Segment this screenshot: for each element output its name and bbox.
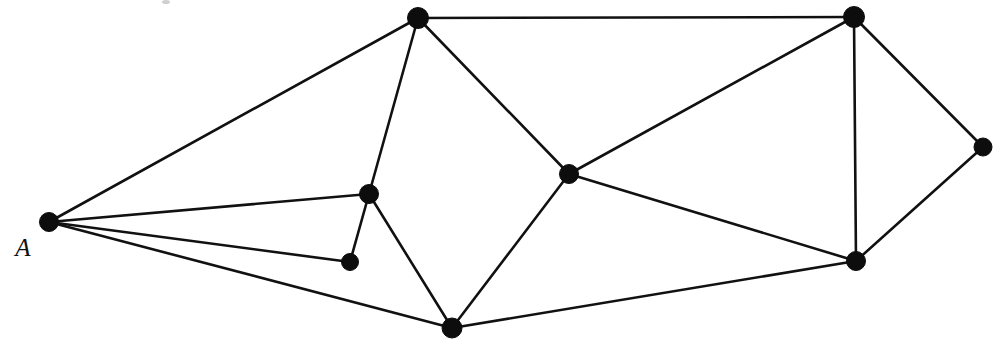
graph-edge-c-g bbox=[854, 17, 983, 147]
graph-vertex-i bbox=[442, 318, 462, 338]
graph-edge-d-e bbox=[350, 194, 369, 262]
graph-edge-f-h bbox=[569, 174, 856, 261]
graph-canvas: A bbox=[0, 0, 995, 359]
edge-layer bbox=[49, 17, 983, 328]
graph-edge-c-f bbox=[569, 17, 854, 174]
graph-edge-b-c bbox=[418, 17, 854, 18]
graph-vertex-g bbox=[974, 138, 992, 156]
scan-artifact bbox=[162, 0, 170, 4]
graph-edge-a-i bbox=[49, 222, 452, 328]
graph-vertex-b bbox=[408, 8, 429, 29]
vertex-layer bbox=[40, 7, 993, 339]
graph-edge-b-f bbox=[418, 18, 569, 174]
graph-figure: A bbox=[0, 0, 995, 359]
graph-vertex-c bbox=[844, 7, 865, 28]
label-layer: A bbox=[13, 234, 31, 261]
graph-vertex-e bbox=[342, 254, 359, 271]
graph-vertex-d bbox=[360, 185, 379, 204]
graph-vertex-a bbox=[40, 213, 59, 232]
graph-vertex-h bbox=[847, 252, 866, 271]
graph-edge-h-i bbox=[452, 261, 856, 328]
graph-edge-a-d bbox=[49, 194, 369, 222]
graph-edge-g-h bbox=[856, 147, 983, 261]
graph-edge-b-d bbox=[369, 18, 418, 194]
graph-edge-d-i bbox=[369, 194, 452, 328]
graph-edge-f-i bbox=[452, 174, 569, 328]
vertex-label-a: A bbox=[13, 234, 31, 261]
graph-edge-a-e bbox=[49, 222, 350, 262]
artifact-layer bbox=[162, 0, 170, 4]
graph-vertex-f bbox=[560, 165, 579, 184]
graph-edge-c-h bbox=[854, 17, 856, 261]
